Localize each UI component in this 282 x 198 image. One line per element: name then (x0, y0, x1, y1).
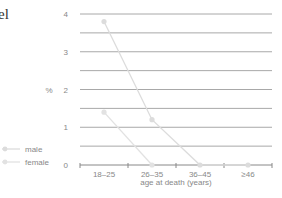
x-axis-title: age at death (years) (140, 178, 212, 187)
legend-label: female (25, 158, 50, 167)
y-tick-label: 2 (64, 86, 69, 95)
y-tick-label: 1 (64, 123, 69, 132)
data-point-marker (149, 162, 154, 167)
data-point-marker (197, 162, 202, 167)
legend: malefemale (2, 145, 50, 167)
data-point-marker (245, 162, 250, 167)
x-tick-label: ≥46 (241, 170, 255, 179)
y-tick-label: 0 (64, 161, 69, 170)
data-series (101, 19, 250, 168)
series-male (101, 19, 250, 168)
data-point-marker (101, 110, 106, 115)
x-tick-label: 18–25 (93, 170, 116, 179)
series-line (104, 112, 152, 165)
data-point-marker (149, 117, 154, 122)
legend-label: male (25, 145, 43, 154)
series-female (101, 110, 154, 168)
y-tick-label: 4 (64, 10, 69, 19)
legend-marker-icon (3, 160, 8, 165)
data-point-marker (101, 19, 106, 24)
legend-item-female: female (2, 158, 50, 167)
y-axis-unit: % (45, 86, 52, 95)
line-chart: 01234 % 18–2526–3536–45≥46 age at death … (0, 0, 282, 198)
legend-marker-icon (3, 147, 8, 152)
y-tick-label: 3 (64, 48, 69, 57)
y-axis-ticks: 01234 (64, 10, 69, 170)
series-line (104, 22, 248, 165)
legend-item-male: male (2, 145, 43, 154)
gridlines (80, 14, 272, 146)
